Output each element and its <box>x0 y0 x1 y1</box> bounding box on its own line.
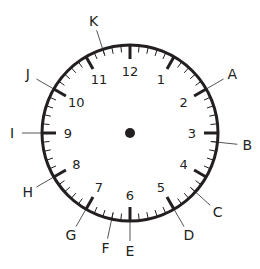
minute-tick <box>59 81 65 85</box>
hour-number: 12 <box>122 64 139 79</box>
hour-tick <box>167 57 174 69</box>
minute-tick <box>178 62 182 68</box>
hour-number: 3 <box>188 126 196 141</box>
hour-number: 7 <box>95 180 103 195</box>
hour-tick <box>86 57 93 69</box>
label-d: D <box>184 227 195 243</box>
minute-tick <box>190 187 195 192</box>
minute-tick <box>78 199 82 205</box>
label-k: K <box>89 13 99 29</box>
center-dot <box>125 128 135 138</box>
hour-number: 4 <box>180 157 188 172</box>
hour-number: 2 <box>180 95 188 110</box>
minute-tick <box>78 62 82 68</box>
label-i: I <box>10 125 14 141</box>
hour-number: 11 <box>91 72 108 87</box>
hour-number: 10 <box>68 95 85 110</box>
minute-tick <box>178 199 182 205</box>
minute-tick <box>190 74 195 79</box>
minute-tick <box>196 181 202 185</box>
label-j: J <box>25 66 30 82</box>
hour-tick <box>194 89 206 96</box>
hour-number: 8 <box>72 157 80 172</box>
hour-tick <box>86 197 93 209</box>
hour-tick <box>167 197 174 209</box>
minute-tick <box>184 68 189 73</box>
label-f: F <box>101 240 109 256</box>
hour-number: 9 <box>64 126 72 141</box>
hour-number: 1 <box>157 72 165 87</box>
minute-tick <box>65 74 70 79</box>
clock-diagram: 121234567891011 ABCDEFGHIJK <box>0 0 260 269</box>
label-c: C <box>213 204 223 220</box>
label-b: B <box>243 137 253 153</box>
minute-tick <box>196 81 202 85</box>
minute-tick <box>71 193 76 198</box>
minute-tick <box>59 181 65 185</box>
hour-tick <box>54 170 66 177</box>
hour-number: 5 <box>157 180 165 195</box>
minute-tick <box>71 68 76 73</box>
hour-tick <box>54 89 66 96</box>
label-e: E <box>126 243 135 259</box>
label-a: A <box>227 66 237 82</box>
hour-number: 6 <box>126 188 134 203</box>
minute-tick <box>65 187 70 192</box>
minute-tick <box>184 193 189 198</box>
label-g: G <box>66 227 77 243</box>
hour-tick <box>194 170 206 177</box>
label-h: H <box>23 184 34 200</box>
